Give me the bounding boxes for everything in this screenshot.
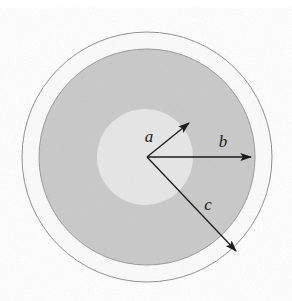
radius-label-a: a [145,127,154,146]
radius-label-c: c [204,195,212,214]
concentric-circles-diagram: a b c [0,0,292,301]
radius-label-b: b [219,132,228,151]
figure-container: a b c [0,0,292,301]
